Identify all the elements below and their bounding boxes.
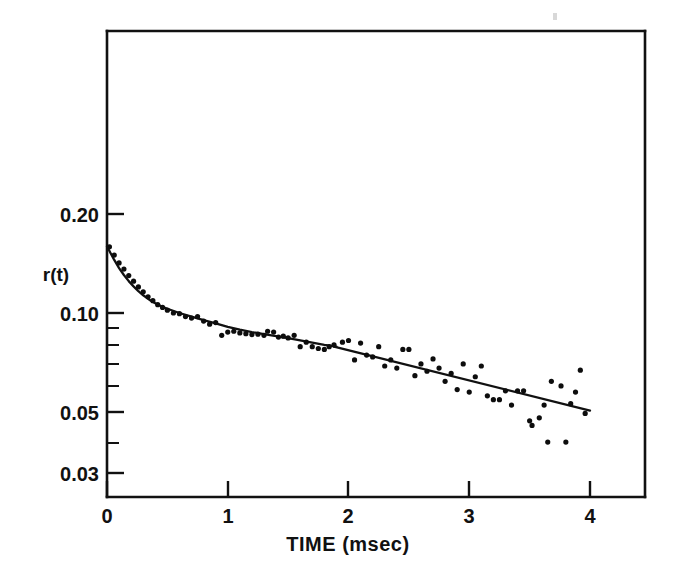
data-point — [509, 402, 514, 407]
data-point — [358, 341, 363, 346]
data-point — [327, 344, 332, 349]
data-point — [183, 314, 188, 319]
data-point — [340, 340, 345, 345]
x-tick-label-0: 0 — [101, 505, 112, 527]
data-point — [304, 340, 309, 345]
data-point — [364, 352, 369, 357]
data-point — [443, 379, 448, 384]
data-point — [213, 320, 218, 325]
data-point — [497, 397, 502, 402]
data-point — [563, 440, 568, 445]
data-point — [549, 379, 554, 384]
y-tick-label-1: 0.10 — [60, 303, 99, 325]
x-tick-label-3: 3 — [463, 505, 474, 527]
data-point — [473, 374, 478, 379]
data-point — [155, 302, 160, 307]
data-point — [150, 298, 155, 303]
data-point — [406, 347, 411, 352]
data-point — [207, 322, 212, 327]
data-point — [455, 387, 460, 392]
data-point — [491, 397, 496, 402]
data-point — [400, 347, 405, 352]
data-point — [352, 357, 357, 362]
data-point — [316, 346, 321, 351]
data-point — [298, 344, 303, 349]
data-point — [376, 344, 381, 349]
y-tick-label-2: 0.05 — [60, 402, 99, 424]
data-point — [126, 273, 131, 278]
data-point — [177, 311, 182, 316]
data-point — [583, 411, 588, 416]
data-point — [424, 369, 429, 374]
data-point — [578, 368, 583, 373]
data-point — [461, 361, 466, 366]
x-tick-label-2: 2 — [342, 505, 353, 527]
scan-artifact-speck — [553, 13, 557, 20]
data-point — [189, 315, 194, 320]
y-tick-label-3: 0.03 — [60, 463, 99, 485]
data-point — [116, 260, 121, 265]
data-point — [542, 402, 547, 407]
data-point — [430, 356, 435, 361]
data-point — [568, 401, 573, 406]
data-point — [529, 423, 534, 428]
data-point — [271, 329, 276, 334]
data-point — [286, 335, 291, 340]
data-point — [503, 388, 508, 393]
data-point — [527, 418, 532, 423]
data-point — [436, 365, 441, 370]
data-point — [195, 314, 200, 319]
data-point — [449, 371, 454, 376]
data-point — [412, 373, 417, 378]
data-point — [255, 332, 260, 337]
data-point — [249, 332, 254, 337]
data-point — [265, 329, 270, 334]
data-point — [418, 361, 423, 366]
x-tick-label-1: 1 — [222, 505, 233, 527]
data-point — [346, 338, 351, 343]
data-point — [521, 388, 526, 393]
figure-container: 0.20 0.10 0.05 0.03 0 1 2 3 4 r(t) TIME … — [0, 0, 693, 580]
x-tick-label-4: 4 — [584, 505, 596, 527]
y-tick-label-0: 0.20 — [60, 204, 99, 226]
data-point — [136, 284, 141, 289]
data-point — [331, 342, 336, 347]
data-point — [292, 333, 297, 338]
data-point — [310, 344, 315, 349]
data-point — [165, 308, 170, 313]
data-point — [237, 330, 242, 335]
data-point — [107, 244, 112, 249]
data-point — [537, 415, 542, 420]
data-point — [160, 305, 165, 310]
data-point — [201, 318, 206, 323]
data-point — [515, 388, 520, 393]
data-point — [394, 365, 399, 370]
data-point — [141, 289, 146, 294]
data-point — [121, 266, 126, 271]
data-point — [382, 363, 387, 368]
data-point — [171, 310, 176, 315]
data-point — [545, 440, 550, 445]
data-point — [370, 354, 375, 359]
data-point — [281, 334, 286, 339]
data-point — [479, 363, 484, 368]
data-point — [225, 329, 230, 334]
data-point — [219, 333, 224, 338]
data-point — [131, 279, 136, 284]
data-point — [261, 333, 266, 338]
data-point — [485, 393, 490, 398]
x-axis-title: TIME (msec) — [286, 533, 409, 555]
data-point — [112, 252, 117, 257]
data-point — [276, 334, 281, 339]
data-point — [573, 389, 578, 394]
data-point — [231, 329, 236, 334]
data-point — [145, 294, 150, 299]
anisotropy-decay-plot: 0.20 0.10 0.05 0.03 0 1 2 3 4 r(t) TIME … — [0, 0, 693, 580]
data-point — [322, 347, 327, 352]
data-point — [558, 383, 563, 388]
data-point — [388, 357, 393, 362]
data-point — [467, 389, 472, 394]
y-axis-title: r(t) — [43, 264, 69, 285]
data-point — [243, 331, 248, 336]
